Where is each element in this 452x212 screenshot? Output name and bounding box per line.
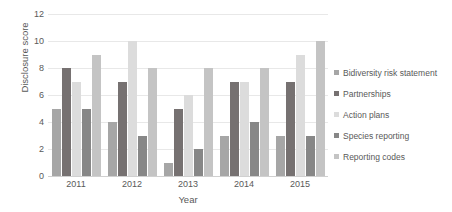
x-axis-title: Year (48, 194, 328, 205)
bar[interactable] (276, 136, 285, 177)
bar[interactable] (194, 149, 203, 176)
legend-label: Bidiversity risk statement (343, 68, 437, 78)
bar-slot (164, 14, 173, 176)
y-axis-tick-label: 0 (22, 171, 44, 181)
bar-group (160, 14, 216, 176)
bar[interactable] (72, 82, 81, 177)
bar[interactable] (128, 41, 137, 176)
legend-item[interactable]: Bidiversity risk statement (334, 62, 452, 83)
legend-label: Reporting codes (343, 152, 405, 162)
bar-slot (306, 14, 315, 176)
legend-swatch-icon (334, 154, 339, 159)
bar-slot (230, 14, 239, 176)
bar-group (272, 14, 328, 176)
bar-slot (82, 14, 91, 176)
bar-slot (138, 14, 147, 176)
y-axis-tick-label: 8 (22, 63, 44, 73)
bar-slot (174, 14, 183, 176)
plot-area (48, 14, 328, 176)
bar-slot (240, 14, 249, 176)
y-axis-tick-label: 4 (22, 117, 44, 127)
bar-slot (128, 14, 137, 176)
bar[interactable] (148, 68, 157, 176)
bar[interactable] (316, 41, 325, 176)
bar[interactable] (164, 163, 173, 177)
bar-chart: Disclosure score 024681012 2011201220132… (0, 0, 452, 212)
bar[interactable] (296, 55, 305, 177)
bar[interactable] (306, 136, 315, 177)
legend-label: Partnerships (343, 89, 391, 99)
bar-slot (204, 14, 213, 176)
legend-swatch-icon (334, 91, 339, 96)
x-axis-tick-label: 2011 (48, 179, 104, 193)
bar[interactable] (230, 82, 239, 177)
bar[interactable] (286, 82, 295, 177)
bar-slot (250, 14, 259, 176)
bar[interactable] (138, 136, 147, 177)
bar-slot (194, 14, 203, 176)
bar[interactable] (240, 82, 249, 177)
bar[interactable] (250, 122, 259, 176)
legend-item[interactable]: Species reporting (334, 125, 452, 146)
bar[interactable] (184, 95, 193, 176)
bar-slot (184, 14, 193, 176)
bar-slot (276, 14, 285, 176)
bar[interactable] (260, 68, 269, 176)
bar-slot (72, 14, 81, 176)
bar-slot (118, 14, 127, 176)
x-axis-tick-label: 2012 (104, 179, 160, 193)
legend-label: Action plans (343, 110, 389, 120)
bar-slot (220, 14, 229, 176)
legend-item[interactable]: Reporting codes (334, 146, 452, 167)
chart-legend: Bidiversity risk statementPartnershipsAc… (334, 62, 452, 167)
x-axis-tick-label: 2014 (216, 179, 272, 193)
legend-swatch-icon (334, 112, 339, 117)
bar-groups (48, 14, 328, 176)
y-axis-tick-label: 12 (22, 9, 44, 19)
bar-slot (52, 14, 61, 176)
bar-slot (148, 14, 157, 176)
bar-slot (260, 14, 269, 176)
bar-slot (108, 14, 117, 176)
bar-group (104, 14, 160, 176)
bar-slot (62, 14, 71, 176)
bar-slot (316, 14, 325, 176)
bar[interactable] (174, 109, 183, 177)
x-axis-tick-labels: 20112012201320142015 (48, 179, 328, 193)
bar-slot (286, 14, 295, 176)
bar[interactable] (82, 109, 91, 177)
bar[interactable] (118, 82, 127, 177)
y-axis-tick-label: 6 (22, 90, 44, 100)
y-axis-tick-label: 10 (22, 36, 44, 46)
y-axis-tick-label: 2 (22, 144, 44, 154)
x-axis-tick-label: 2013 (160, 179, 216, 193)
legend-item[interactable]: Partnerships (334, 83, 452, 104)
y-axis-tick-labels: 024681012 (22, 0, 44, 212)
x-axis-line (48, 176, 328, 177)
bar-group (48, 14, 104, 176)
legend-swatch-icon (334, 70, 339, 75)
bar[interactable] (52, 109, 61, 177)
x-axis-tick-label: 2015 (272, 179, 328, 193)
bar[interactable] (62, 68, 71, 176)
legend-label: Species reporting (343, 131, 409, 141)
bar[interactable] (92, 55, 101, 177)
bar[interactable] (220, 136, 229, 177)
bar[interactable] (108, 122, 117, 176)
legend-item[interactable]: Action plans (334, 104, 452, 125)
bar-slot (296, 14, 305, 176)
bar-group (216, 14, 272, 176)
bar-slot (92, 14, 101, 176)
legend-swatch-icon (334, 133, 339, 138)
bar[interactable] (204, 68, 213, 176)
